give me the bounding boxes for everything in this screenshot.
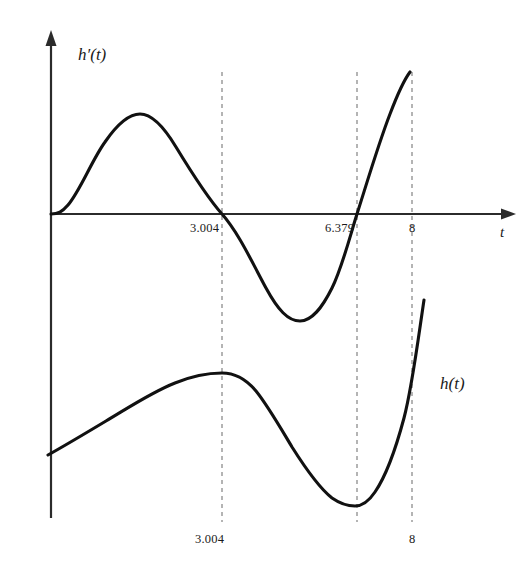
tick-label-lower-3-004: 3.004 xyxy=(195,532,224,547)
derivative-curve-h-prime xyxy=(51,72,410,321)
curve-label-h: h(t) xyxy=(440,374,465,394)
function-curve-h xyxy=(48,300,424,506)
curve-label-h-prime: h′(t) xyxy=(78,45,106,65)
math-figure-derivative-and-function: 3.004 6.379 8 3.004 8 h′(t) h(t) t xyxy=(0,0,530,578)
tick-label-upper-6-379: 6.379 xyxy=(325,221,354,236)
axis-label-t: t xyxy=(500,224,504,241)
tick-label-lower-8: 8 xyxy=(409,532,415,547)
t-axis-arrowhead xyxy=(501,209,516,220)
tick-label-upper-8: 8 xyxy=(409,221,415,236)
vertical-axis-arrowhead xyxy=(46,30,57,46)
tick-label-upper-3-004: 3.004 xyxy=(190,221,219,236)
